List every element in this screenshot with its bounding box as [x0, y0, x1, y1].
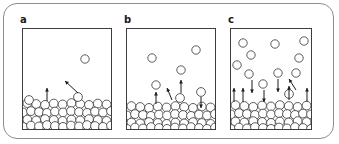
free-particle: [247, 51, 255, 59]
arrow-up-0: [232, 88, 236, 102]
bed-particle: [267, 124, 276, 133]
bed-particle: [227, 124, 236, 133]
arrow-head: [287, 86, 291, 90]
arrows-c: [232, 79, 309, 102]
panel-inner-c: [227, 37, 316, 133]
arrow-down-2: [250, 80, 254, 93]
figure-container: abc: [0, 0, 339, 144]
free-particle: [292, 69, 300, 77]
bed-particle: [243, 124, 252, 133]
bed-particle: [284, 102, 293, 111]
arrow-up-7: [305, 88, 309, 102]
bed-particle: [283, 124, 292, 133]
bed-particle: [259, 109, 268, 118]
packed-bed-c: [227, 101, 316, 134]
free-particle: [271, 40, 279, 48]
free-particles-c: [233, 37, 308, 88]
arrow-head: [276, 88, 280, 92]
arrow-head: [241, 88, 245, 92]
free-particle: [300, 37, 308, 45]
free-particle: [274, 69, 282, 77]
bed-particle: [275, 101, 284, 110]
bed-particle: [235, 109, 244, 118]
bed-particle: [267, 110, 276, 119]
bed-particle: [249, 103, 258, 112]
free-particle: [295, 54, 303, 62]
bed-particle: [299, 109, 308, 118]
bed-particle: [275, 123, 284, 132]
bed-particle: [235, 123, 244, 132]
bed-particle: [302, 101, 311, 110]
bed-particle: [259, 124, 268, 133]
panel-graphics-c: [0, 0, 339, 144]
arrow-head: [250, 89, 254, 93]
bed-particle: [307, 124, 316, 133]
arrow-head: [305, 88, 309, 92]
free-particle: [245, 70, 253, 78]
arrow-head: [232, 88, 236, 92]
bed-particle: [299, 124, 308, 133]
bed-particle: [283, 110, 292, 119]
bed-particle: [267, 102, 276, 111]
bed-particle: [291, 123, 300, 132]
free-particle: [239, 39, 247, 47]
arrow-up-1: [241, 88, 245, 102]
bed-particle: [275, 109, 284, 118]
bed-particle: [231, 101, 240, 110]
free-particle: [233, 61, 241, 69]
bed-particle: [251, 123, 260, 132]
free-particle: [259, 80, 267, 88]
bed-particle: [243, 110, 252, 119]
bed-particle: [258, 101, 267, 110]
arrow-down-4: [276, 79, 280, 92]
arrow-down-3: [262, 90, 266, 102]
